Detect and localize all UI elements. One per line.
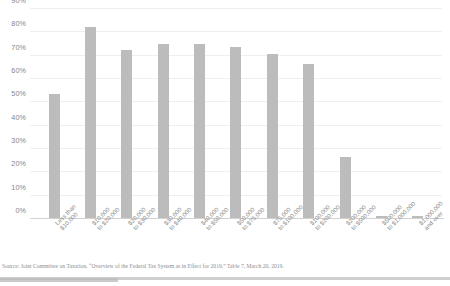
x-label-slot: $20,000to $30,000 [109, 220, 145, 264]
y-axis-tick-label: 50% [11, 89, 26, 98]
bar-chart: 90%80%70%60%50%40%30%20%10%0% Less than$… [0, 0, 450, 286]
x-label-slot: $200,000to $500,000 [327, 220, 363, 264]
bar [121, 50, 132, 218]
y-axis-tick-label: 70% [11, 42, 26, 51]
footer-accent-bar [0, 278, 118, 282]
bar [267, 54, 278, 219]
x-label-slot: $75,000to $100,000 [254, 220, 290, 264]
x-axis-line [30, 218, 444, 219]
y-axis-tick-label: 60% [11, 66, 26, 75]
bar-slot [36, 8, 72, 218]
bar [49, 94, 60, 218]
bar-series [30, 8, 442, 218]
bar-slot [291, 8, 327, 218]
x-label-slot: $50,000to $75,000 [218, 220, 254, 264]
bar-slot [72, 8, 108, 218]
bar-slot [181, 8, 217, 218]
bar [230, 47, 241, 219]
bar [303, 64, 314, 218]
x-label-slot: $30,000to $40,000 [145, 220, 181, 264]
bar [85, 27, 96, 218]
y-axis-tick-label: 10% [11, 182, 26, 191]
bar-slot [363, 8, 399, 218]
y-axis-tick-label: 30% [11, 136, 26, 145]
x-label-slot: Less than$10,000 [36, 220, 72, 264]
y-axis-tick-label: 40% [11, 112, 26, 121]
bar [158, 44, 169, 218]
bar-slot [218, 8, 254, 218]
bar-slot [400, 8, 436, 218]
bar-slot [109, 8, 145, 218]
y-axis-tick-label: 80% [11, 19, 26, 28]
y-axis: 90%80%70%60%50%40%30%20%10%0% [0, 0, 30, 210]
x-label-slot: $100,000to $200,000 [291, 220, 327, 264]
x-axis-category-labels: Less than$10,000$10,000to $20,000$20,000… [30, 220, 442, 264]
x-label-slot: $40,000to $50,000 [181, 220, 217, 264]
source-note: Source: Joint Committee on Taxation, “Ov… [2, 263, 432, 270]
bar [340, 157, 351, 218]
x-label-slot: $500,000to $1,000,000 [363, 220, 399, 264]
bar-slot [327, 8, 363, 218]
x-label-slot: $1,000,000and over [400, 220, 436, 264]
y-axis-tick-label: 20% [11, 159, 26, 168]
bar-slot [254, 8, 290, 218]
bar-slot [145, 8, 181, 218]
bar [194, 44, 205, 218]
x-label-slot: $10,000to $20,000 [72, 220, 108, 264]
y-axis-tick-label: 90% [11, 0, 26, 5]
y-axis-tick-label: 0% [15, 206, 26, 215]
